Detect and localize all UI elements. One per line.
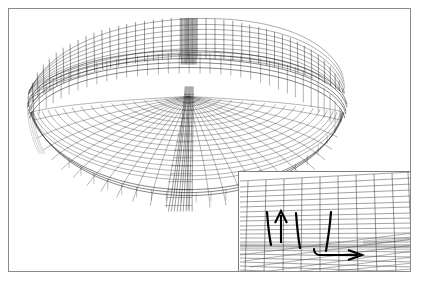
- near-wall-mesh-detail-inset: [238, 171, 411, 272]
- figure-root: [0, 0, 422, 292]
- figure-frame: [8, 8, 411, 272]
